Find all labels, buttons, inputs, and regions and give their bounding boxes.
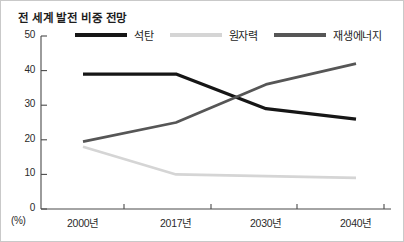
axes	[41, 36, 391, 209]
y-tick-label: 30	[9, 98, 35, 109]
unit-label: (%)	[11, 215, 26, 226]
data-series-group	[83, 64, 356, 178]
y-tick-label: 40	[9, 64, 35, 75]
y-tick-label: 50	[9, 29, 35, 40]
x-tick-label: 2040년	[340, 215, 372, 230]
series-line-nuclear	[83, 147, 356, 178]
series-line-coal	[83, 74, 356, 119]
x-tick-label: 2000년	[67, 215, 99, 230]
y-tick-label: 20	[9, 133, 35, 144]
y-tick-label: 0	[9, 202, 35, 213]
x-tick-label: 2030년	[250, 215, 282, 230]
chart-figure: 전 세계 발전 비중 전망 석탄 원자력 재생에너지 01020304050 2…	[0, 0, 404, 242]
y-tick-label: 10	[9, 167, 35, 178]
x-tick-label: 2017년	[160, 215, 192, 230]
plot-area	[1, 1, 404, 242]
